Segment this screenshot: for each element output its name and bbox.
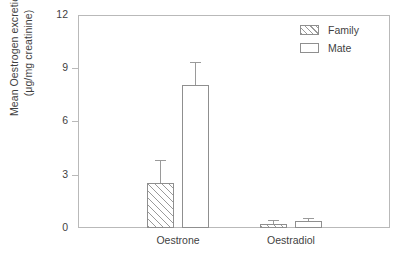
y-tick-label-9: 9 xyxy=(28,61,68,73)
y-tick-label-0: 0 xyxy=(28,221,68,233)
legend-item-mate: Mate xyxy=(300,40,359,55)
x-category-label-oestradiol: Oestradiol xyxy=(231,234,351,246)
bar-oestrone-family xyxy=(147,183,174,228)
chart-figure: Mean Oestrogen excretion (μg/mg creatini… xyxy=(0,0,404,256)
bar-oestradiol-family xyxy=(260,224,287,228)
y-axis-title-line2: (μg/mg creatinine) xyxy=(21,0,35,153)
legend-swatch-family-icon xyxy=(300,25,319,35)
errorbar-line-oestrone-mate xyxy=(195,62,196,85)
errorbar-line-oestrone-family xyxy=(160,160,161,183)
errorbar-cap-oestrone-mate xyxy=(190,62,201,63)
y-axis-title-line1: Mean Oestrogen excretion xyxy=(7,0,21,153)
errorbar-cap-oestradiol-mate xyxy=(303,218,314,219)
errorbar-cap-oestradiol-family xyxy=(268,220,279,221)
y-tick-label-12: 12 xyxy=(28,8,68,20)
x-category-label-oestrone: Oestrone xyxy=(118,234,238,246)
y-tick-label-3: 3 xyxy=(28,168,68,180)
y-tick-label-6: 6 xyxy=(28,114,68,126)
legend-label-family: Family xyxy=(328,24,359,36)
chart-legend: Family Mate xyxy=(300,22,359,58)
bar-oestradiol-mate xyxy=(295,221,322,228)
legend-label-mate: Mate xyxy=(328,42,351,54)
legend-swatch-mate-icon xyxy=(300,43,319,53)
errorbar-cap-oestrone-family xyxy=(155,160,166,161)
y-axis-title: Mean Oestrogen excretion (μg/mg creatini… xyxy=(7,0,41,153)
legend-item-family: Family xyxy=(300,22,359,37)
bar-oestrone-mate xyxy=(182,85,209,228)
